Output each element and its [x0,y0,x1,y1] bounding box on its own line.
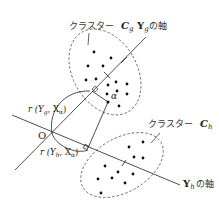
cluster-g-boundary [54,16,155,128]
cluster-h-label: クラスター Ch [148,113,212,131]
alpha-label: α [111,91,117,101]
cluster-projection-diagram: O α クラスター Cg Ygの軸 クラスター Ch Yhの軸 r (Yg, X… [0,0,219,210]
cluster-g-points [85,51,129,108]
proj-g-label: r (Yg, Xα) [28,104,66,116]
origin-label: O [38,130,46,141]
proj-h-label: r (Yh, Xα) [40,147,78,158]
axis-ticks [104,57,127,166]
leader-cluster-h [151,133,160,143]
cluster-h-boundary [70,119,175,210]
axis-g-label: Ygの軸 [136,20,167,33]
cluster-g-label: クラスター Cg [69,15,134,33]
axis-h-label: Yhの軸 [182,178,214,191]
leader-cluster-g [88,33,89,45]
projection-h-line [88,102,108,148]
projection-g-line [92,91,108,102]
